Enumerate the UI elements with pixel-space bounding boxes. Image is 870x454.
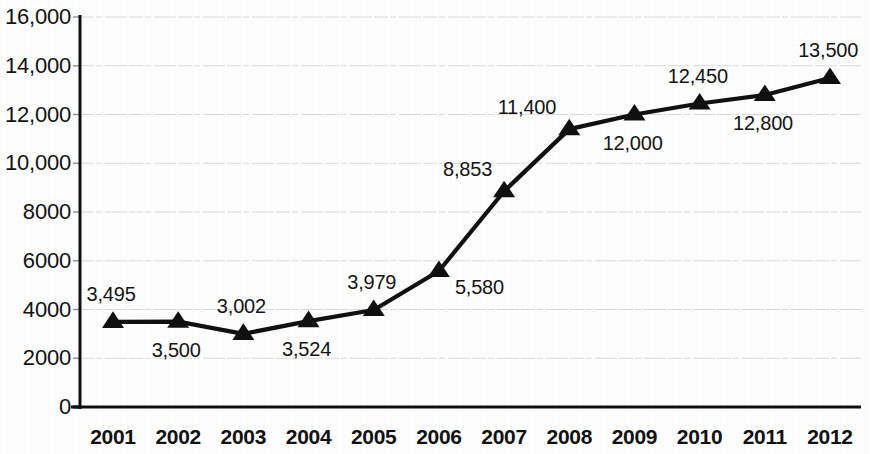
line-chart: 0200040006000800010,00012,00014,00016,00… <box>0 0 870 454</box>
data-point-value-label: 13,500 <box>798 40 858 60</box>
y-axis-tick-label: 8000 <box>23 201 71 223</box>
y-axis-tick-label: 0 <box>59 396 71 418</box>
data-point-markers <box>102 67 841 339</box>
data-point-value-label: 3,979 <box>347 272 396 292</box>
data-point-value-label: 3,524 <box>282 339 331 359</box>
chart-plot-area <box>0 0 870 454</box>
y-axis-tick-label: 10,000 <box>5 152 71 174</box>
y-axis-tick-label: 12,000 <box>5 104 71 126</box>
y-axis-tick-label: 16,000 <box>5 6 71 28</box>
y-axis-tick-label: 14,000 <box>5 55 71 77</box>
data-point-value-label: 8,853 <box>443 159 492 179</box>
data-point-marker <box>102 311 124 328</box>
x-axis-tick-label: 2012 <box>790 426 870 447</box>
y-axis-tick-label: 2000 <box>23 347 71 369</box>
data-point-value-label: 12,000 <box>603 133 663 153</box>
data-point-value-label: 3,495 <box>87 284 136 304</box>
data-point-value-label: 3,002 <box>217 296 266 316</box>
data-point-value-label: 12,800 <box>733 113 793 133</box>
data-point-value-label: 11,400 <box>498 97 557 117</box>
y-axis-tick-label: 4000 <box>23 299 71 321</box>
data-point-value-label: 3,500 <box>152 340 201 360</box>
gridlines <box>80 17 861 358</box>
data-point-marker <box>819 67 841 84</box>
y-axis-tick-label: 6000 <box>23 250 71 272</box>
data-point-value-label: 5,580 <box>455 277 504 297</box>
data-point-marker <box>167 311 189 328</box>
data-point-value-label: 12,450 <box>668 66 728 86</box>
